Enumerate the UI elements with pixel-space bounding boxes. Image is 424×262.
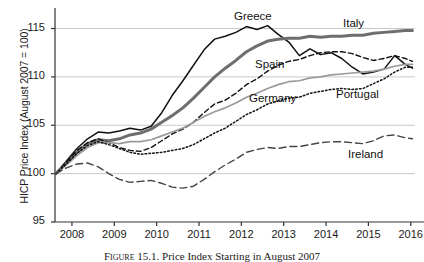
x-tick-label: 2011 bbox=[179, 228, 219, 240]
x-tick-label: 2013 bbox=[264, 228, 304, 240]
series-label-greece: Greece bbox=[234, 10, 272, 22]
x-tick-label: 2012 bbox=[221, 228, 261, 240]
series-label-germany: Germany bbox=[249, 92, 296, 104]
x-tick-label: 2010 bbox=[137, 228, 177, 240]
x-tick-label: 2014 bbox=[306, 228, 346, 240]
figure-caption: Figure 15.1. Price Index Starting in Aug… bbox=[0, 250, 424, 262]
series-label-portugal: Portugal bbox=[336, 88, 379, 100]
y-tick-label: 115 bbox=[19, 21, 45, 33]
x-tick-label: 2009 bbox=[94, 228, 134, 240]
caption-figure-number: Figure 15.1. bbox=[104, 250, 159, 262]
x-tick-label: 2015 bbox=[348, 228, 388, 240]
caption-title: Price Index Starting in August 2007 bbox=[162, 250, 320, 262]
y-axis-title: HICP Price Index (August 2007 = 100) bbox=[18, 16, 30, 216]
series-label-spain: Spain bbox=[255, 58, 284, 70]
y-tick-label: 100 bbox=[19, 166, 45, 178]
y-tick-label: 110 bbox=[19, 69, 45, 81]
axes-group bbox=[51, 8, 424, 226]
series-label-italy: Italy bbox=[343, 17, 364, 29]
x-tick-label: 2008 bbox=[52, 228, 92, 240]
y-tick-label: 105 bbox=[19, 117, 45, 129]
series-label-ireland: Ireland bbox=[348, 148, 383, 160]
series-lines-group bbox=[56, 26, 413, 189]
x-tick-label: 2016 bbox=[391, 228, 424, 240]
y-tick-label: 95 bbox=[19, 214, 45, 226]
